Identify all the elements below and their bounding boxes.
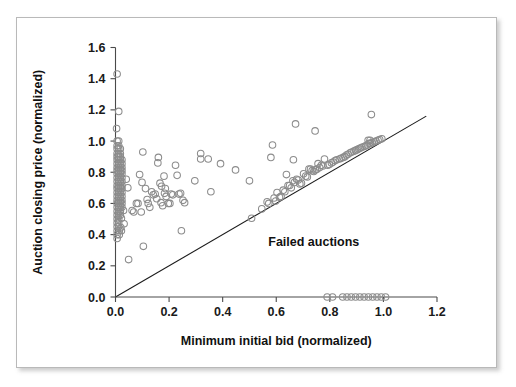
x-tick-label: 0.0 xyxy=(107,305,124,319)
data-point xyxy=(142,185,149,192)
data-point xyxy=(292,121,299,128)
data-point xyxy=(115,108,122,115)
data-point xyxy=(208,188,215,195)
data-point xyxy=(232,167,239,174)
data-point xyxy=(172,162,179,169)
x-tick-label: 0.4 xyxy=(214,305,231,319)
y-tick-label: 0.4 xyxy=(88,228,105,242)
y-tick-label: 0.8 xyxy=(88,166,105,180)
data-point xyxy=(368,111,375,118)
x-tick-label: 1.0 xyxy=(375,305,392,319)
data-point xyxy=(264,199,271,206)
data-point xyxy=(246,178,253,185)
data-point xyxy=(312,128,319,135)
data-point xyxy=(130,209,137,216)
data-point xyxy=(140,149,147,156)
scatter-plot: 0.00.20.40.60.81.01.20.00.20.40.60.81.01… xyxy=(0,0,516,387)
data-point xyxy=(290,156,297,163)
axes xyxy=(111,48,438,303)
data-point xyxy=(282,188,289,195)
y-tick-label: 1.6 xyxy=(88,41,105,55)
data-point xyxy=(136,171,143,178)
data-point xyxy=(145,200,152,207)
data-point xyxy=(269,142,276,149)
data-point xyxy=(205,156,212,163)
tick-labels: 0.00.20.40.60.81.01.20.00.20.40.60.81.01… xyxy=(88,41,446,319)
data-point xyxy=(321,156,328,163)
data-point xyxy=(140,243,147,250)
data-point xyxy=(114,71,121,78)
data-point xyxy=(217,160,224,167)
data-point xyxy=(146,204,153,211)
y-tick-label: 1.0 xyxy=(88,135,105,149)
x-tick-label: 0.6 xyxy=(268,305,285,319)
data-point xyxy=(178,227,185,234)
y-tick-label: 1.2 xyxy=(88,103,105,117)
data-point xyxy=(113,125,120,132)
y-tick-label: 1.4 xyxy=(88,72,105,86)
data-point xyxy=(138,209,145,216)
data-point xyxy=(114,235,121,242)
y-tick-label: 0.0 xyxy=(88,291,105,305)
data-point xyxy=(139,179,146,186)
data-point xyxy=(265,200,272,207)
data-point xyxy=(125,256,132,263)
data-point xyxy=(192,178,199,185)
y-tick-label: 0.6 xyxy=(88,197,105,211)
x-tick-label: 0.2 xyxy=(160,305,177,319)
x-tick-label: 1.2 xyxy=(428,305,445,319)
data-point xyxy=(161,173,168,180)
annotations: Failed auctions xyxy=(268,235,359,249)
figure-root: 0.00.20.40.60.81.01.20.00.20.40.60.81.01… xyxy=(0,0,516,387)
y-axis-title: Auction closing price (normalized) xyxy=(31,70,45,275)
data-point xyxy=(258,206,265,213)
data-points xyxy=(113,71,389,301)
annotation-failed-auctions: Failed auctions xyxy=(268,235,359,249)
data-point xyxy=(268,154,275,161)
x-axis-title: Minimum initial bid (normalized) xyxy=(181,334,372,348)
data-point xyxy=(283,171,290,178)
data-point xyxy=(174,172,181,179)
data-point xyxy=(129,207,136,214)
x-tick-label: 0.8 xyxy=(321,305,338,319)
y-tick-label: 0.2 xyxy=(88,259,105,273)
